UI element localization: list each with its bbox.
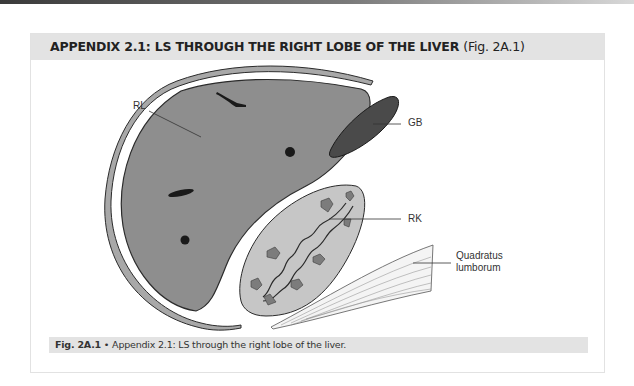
caption-separator: •: [104, 339, 109, 350]
label-rk: RK: [408, 213, 422, 225]
label-ql-line1: Quadratus: [456, 250, 503, 262]
label-quadratus-lumborum: Quadratus lumborum: [456, 250, 503, 274]
vessel: [285, 147, 295, 157]
label-ql-line2: lumborum: [456, 262, 503, 274]
liver-illustration: [1, 1, 634, 386]
label-rl: RL: [133, 100, 146, 112]
caption-body: Appendix 2.1: LS through the right lobe …: [112, 339, 346, 350]
label-gb: GB: [408, 117, 422, 129]
figure-caption: Fig. 2A.1 • Appendix 2.1: LS through the…: [49, 337, 588, 353]
liver-diagram: RL GB RK Quadratus lumborum: [31, 61, 604, 337]
caption-label: Fig. 2A.1: [55, 339, 101, 350]
appendix-box: APPENDIX 2.1: LS THROUGH THE RIGHT LOBE …: [30, 33, 605, 373]
caption-text: Fig. 2A.1 • Appendix 2.1: LS through the…: [55, 339, 346, 350]
vessel: [181, 236, 190, 245]
